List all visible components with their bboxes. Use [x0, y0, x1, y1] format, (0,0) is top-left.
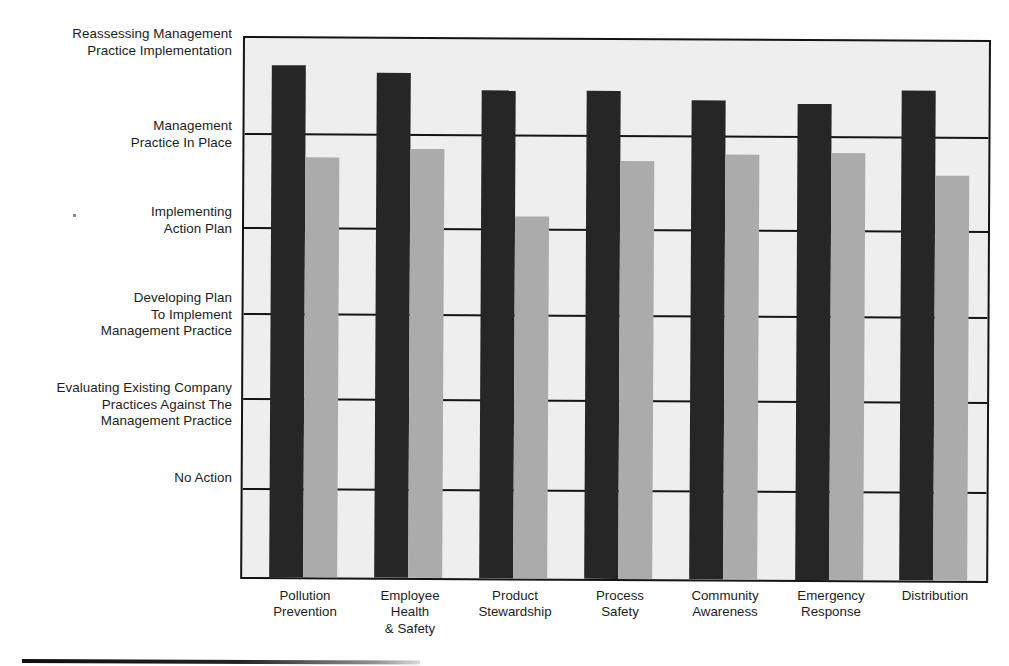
- bar: [479, 91, 516, 579]
- y-axis-label-group: Reassessing Management Practice Implemen…: [0, 0, 236, 600]
- bar: [899, 90, 936, 581]
- chart-figure: Reassessing Management Practice Implemen…: [0, 0, 1009, 666]
- x-axis-tick-label: Distribution: [865, 588, 1005, 604]
- y-axis-tick-label: Reassessing Management Practice Implemen…: [72, 26, 232, 59]
- plot-area-wrapper: [240, 36, 991, 583]
- bar: [269, 65, 306, 577]
- y-axis-tick-label: Evaluating Existing Company Practices Ag…: [56, 380, 232, 430]
- footer-rule: [22, 659, 420, 665]
- bar: [584, 90, 621, 579]
- x-axis-label-group: Pollution Prevention Employee Health & S…: [243, 588, 991, 648]
- bar-group: [242, 38, 989, 581]
- bar: [795, 104, 831, 580]
- bar: [933, 176, 969, 581]
- bar: [829, 153, 865, 580]
- y-axis-tick-label: No Action: [174, 470, 232, 487]
- y-axis-tick-label: Implementing Action Plan: [151, 204, 232, 237]
- bar: [303, 158, 339, 578]
- bar: [689, 101, 726, 580]
- bar: [374, 73, 411, 578]
- bar: [408, 149, 444, 578]
- bar: [618, 161, 654, 579]
- bar: [513, 216, 549, 578]
- y-axis-tick-label: Developing Plan To Implement Management …: [101, 290, 232, 340]
- y-axis-tick-label: Management Practice In Place: [131, 118, 232, 151]
- bar: [723, 154, 759, 580]
- scan-artifact-speck: [73, 214, 76, 217]
- plot-area: [240, 36, 991, 583]
